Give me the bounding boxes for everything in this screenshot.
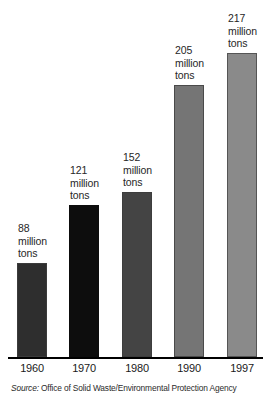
- bar-1997: [227, 53, 257, 357]
- bar-group-1960: 88 million tons: [17, 222, 47, 357]
- bar-value-label-1960: 88 million tons: [18, 222, 47, 259]
- x-axis-labels: 1960 1970 1980 1990 1997: [0, 361, 271, 377]
- bar-value-label-1990: 205 million tons: [175, 44, 204, 81]
- bar-group-1970: 121 million tons: [69, 164, 99, 357]
- x-axis-tick-1990: 1990: [167, 361, 211, 375]
- bar-1990: [174, 85, 204, 357]
- bar-value-label-1970: 121 million tons: [70, 164, 99, 201]
- x-axis-tick-1970: 1970: [62, 361, 106, 375]
- x-axis-tick-1960: 1960: [10, 361, 54, 375]
- bar-value-label-1980: 152 million tons: [123, 151, 152, 188]
- plot-area: 88 million tons 121 million tons 152 mil…: [0, 0, 271, 358]
- x-axis-tick-1997: 1997: [220, 361, 264, 375]
- bar-value-label-1997: 217 million tons: [228, 12, 257, 49]
- bar-1960: [17, 263, 47, 357]
- bar-1970: [69, 205, 99, 357]
- x-axis-baseline: [8, 357, 263, 359]
- bar-1980: [122, 192, 152, 357]
- source-note: Source: Office of Solid Waste/Environmen…: [11, 383, 236, 394]
- waste-generation-bar-chart: 88 million tons 121 million tons 152 mil…: [0, 0, 271, 404]
- bar-group-1997: 217 million tons: [227, 12, 257, 357]
- source-label: Source:: [11, 383, 39, 393]
- x-axis-tick-1980: 1980: [115, 361, 159, 375]
- source-text: Office of Solid Waste/Environmental Prot…: [39, 383, 237, 393]
- bar-group-1980: 152 million tons: [122, 151, 152, 357]
- bar-group-1990: 205 million tons: [174, 44, 204, 357]
